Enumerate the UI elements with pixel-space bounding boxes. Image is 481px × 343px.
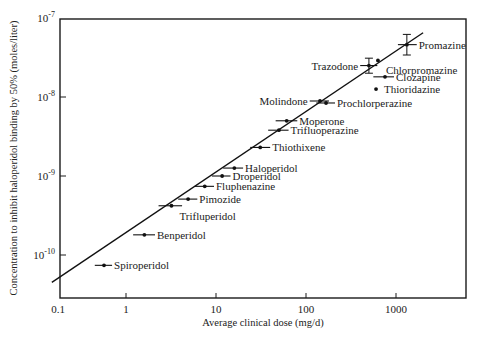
point-label: Thiothixene (272, 141, 325, 153)
point-label: Benperidol (157, 229, 206, 241)
data-point-prochlorperazine: Prochlorperazine (316, 97, 412, 109)
point-label: Pimozide (199, 193, 241, 205)
data-point-thiothixene: Thiothixene (250, 141, 325, 153)
data-point-clozapine: Clozapine (373, 71, 440, 83)
point-label: Promazine (419, 39, 466, 51)
data-point-benperidol: Benperidol (133, 229, 206, 241)
y-tick-label: 10-7 (37, 10, 55, 24)
point-label: Fluphenazine (216, 180, 275, 192)
x-tick-label: 1 (123, 303, 129, 315)
data-point-trifluperidol: Trifluperidol (159, 204, 236, 222)
x-tick-label: 1000 (385, 303, 408, 315)
point-label: Moperone (299, 115, 344, 127)
data-point-promazine: Promazine (398, 34, 466, 55)
x-tick-label: 10 (211, 303, 223, 315)
point-label: Clozapine (396, 71, 441, 83)
y-tick-label: 10-9 (37, 168, 55, 182)
data-point-molindone: Molindone (259, 95, 329, 107)
data-points: SpiroperidolBenperidolTrifluperidolPimoz… (95, 34, 466, 271)
x-axis: 0.11101001000 (51, 293, 407, 315)
chart: 0.11101001000 10-710-810-910-10 Spiroper… (0, 0, 481, 343)
y-tick-label: 10-10 (33, 247, 55, 261)
point-label: Prochlorperazine (337, 97, 412, 109)
point-label: Haloperidol (245, 162, 298, 174)
point-label: Trifluperidol (179, 210, 235, 222)
y-axis: 10-710-810-910-10 (33, 10, 66, 261)
point-label: Molindone (259, 95, 307, 107)
data-point-spiroperidol: Spiroperidol (95, 259, 169, 271)
regression-line (52, 33, 423, 283)
data-point-pimozide: Pimozide (178, 193, 241, 205)
y-axis-title: Concentration to inhibit haloperidol bin… (8, 20, 20, 295)
data-point-fluphenazine: Fluphenazine (195, 180, 276, 192)
point-label: Thioridazine (384, 83, 440, 95)
x-axis-title: Average clinical dose (mg/d) (202, 317, 324, 329)
data-point-thioridazine: Thioridazine (374, 83, 440, 95)
x-tick-label: 0.1 (51, 303, 65, 315)
x-tick-label: 100 (298, 303, 315, 315)
point-label: Trazodone (312, 60, 359, 72)
y-tick-label: 10-8 (37, 89, 55, 103)
point-label: Spiroperidol (114, 259, 169, 271)
plot-frame (60, 19, 466, 298)
